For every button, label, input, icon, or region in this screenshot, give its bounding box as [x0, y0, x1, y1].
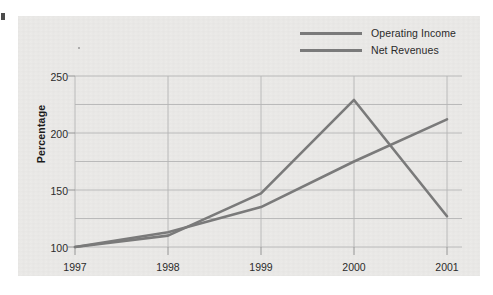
x-axis-ticks-group: [75, 247, 447, 255]
legend-line-swatch-icon: [300, 49, 362, 52]
chart-page: Operating Income Net Revenues Percentage…: [0, 0, 493, 295]
legend-line-swatch-icon: [300, 32, 362, 35]
y-axis-ticks-group: [68, 76, 75, 247]
legend-label-operating-income: Operating Income: [371, 27, 456, 39]
legend-label-net-revenues: Net Revenues: [371, 44, 439, 56]
chart-legend: Operating Income Net Revenues: [300, 27, 456, 56]
legend-item-operating-income: Operating Income: [300, 27, 456, 39]
legend-item-net-revenues: Net Revenues: [300, 44, 456, 56]
